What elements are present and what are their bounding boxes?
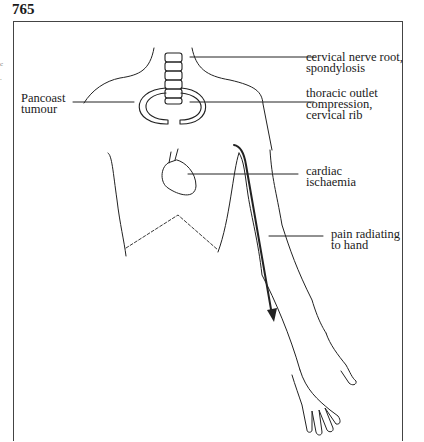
label-line: spondylosis (306, 63, 403, 74)
label-line: tumour (21, 104, 65, 115)
label-cervical-nerve-root: cervical nerve root, spondylosis (306, 52, 403, 74)
label-line: to hand (331, 240, 400, 251)
left-neck-shoulder (84, 48, 154, 103)
label-line: ischaemia (306, 177, 356, 188)
first-rib-ring (139, 88, 205, 124)
cervical-spine (165, 53, 182, 104)
label-cardiac-ischaemia: cardiac ischaemia (306, 166, 356, 188)
arrow-head-icon (267, 308, 277, 322)
pain-arrow (234, 145, 272, 315)
leader-lines (73, 57, 323, 236)
left-torso (108, 153, 126, 256)
label-thoracic-outlet: thoracic outlet compression, cervical ri… (306, 88, 378, 121)
label-line: cervical rib (306, 110, 378, 121)
hand (292, 333, 356, 435)
label-pancoast-tumour: Pancoast tumour (21, 93, 65, 115)
label-pain-radiating: pain radiating to hand (331, 229, 400, 251)
right-torso (218, 153, 239, 252)
heart (162, 160, 196, 195)
costal-margin (126, 215, 218, 250)
inner-arm (239, 153, 300, 370)
